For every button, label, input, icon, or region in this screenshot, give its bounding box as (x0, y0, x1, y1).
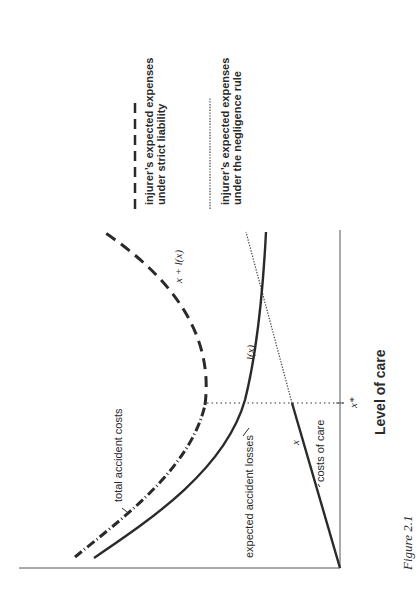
losses-arrow (243, 428, 249, 436)
x-star-label: x* (347, 397, 359, 409)
losses-curve-label: l(x) (244, 344, 257, 360)
figure-canvas: total accident costs expected accident l… (0, 0, 416, 595)
negligence-expense-line (246, 232, 292, 403)
strict-liability-expense-curve (104, 232, 206, 405)
total-costs-arrow (122, 508, 127, 512)
expected-accident-losses-label: expected accident losses (243, 435, 255, 558)
total-curve-label: x + l(x) (172, 250, 185, 284)
legend-strict-line2: under strict liability (155, 103, 167, 205)
total-accident-costs-label: total accident costs (112, 408, 124, 502)
care-curve-label: x (289, 440, 301, 446)
legend-strict-line1: injurer’s expected expenses (143, 58, 155, 205)
legend-negligence-line2: under the negligence rule (231, 71, 243, 205)
total-costs-curve-lower (75, 405, 205, 557)
figure-caption: Figure 2.1 (400, 516, 415, 571)
legend-negligence-line1: injurer’s expected expenses (219, 58, 231, 205)
care-arrow (318, 484, 320, 487)
costs-of-care-label: costs of care (314, 420, 326, 482)
x-axis-label: Level of care (372, 349, 388, 435)
